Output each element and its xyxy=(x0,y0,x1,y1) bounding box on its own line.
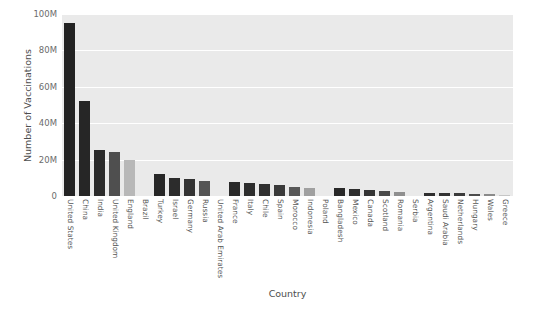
y-tick-label: 80M xyxy=(39,45,57,55)
bar xyxy=(499,195,510,196)
bar-slot xyxy=(422,14,437,196)
x-tick-label: Turkey xyxy=(155,199,164,223)
bar xyxy=(154,174,165,196)
x-tick-label: Poland xyxy=(320,199,329,224)
bar-slot xyxy=(167,14,182,196)
bar-slot xyxy=(407,14,422,196)
x-tick-slot: Brazil xyxy=(137,199,152,284)
x-tick-label: Hungary xyxy=(470,199,479,231)
x-tick-label: Russia xyxy=(200,199,209,223)
bar-chart-figure: Number of Vaccinations 020M40M60M80M100M… xyxy=(0,0,546,317)
x-tick-slot: Turkey xyxy=(152,199,167,284)
bar-slot xyxy=(137,14,152,196)
x-tick-label: Germany xyxy=(185,199,194,233)
x-tick-slot: England xyxy=(122,199,137,284)
bar xyxy=(424,193,435,196)
x-tick-slot: Indonesia xyxy=(302,199,317,284)
x-tick-slot: Scotland xyxy=(377,199,392,284)
bar xyxy=(124,160,135,196)
x-tick-label: France xyxy=(230,199,239,224)
x-tick-slot: Argentina xyxy=(422,199,437,284)
bar-slot xyxy=(122,14,137,196)
x-tick-slot: India xyxy=(92,199,107,284)
bar-slot xyxy=(257,14,272,196)
x-tick-slot: United Kingdom xyxy=(107,199,122,284)
x-tick-label: Israel xyxy=(170,199,179,219)
x-tick-label: Romania xyxy=(395,199,404,231)
bar xyxy=(79,101,90,196)
bar xyxy=(469,194,480,196)
bar xyxy=(64,23,75,196)
bar-slot xyxy=(242,14,257,196)
x-tick-slot: Greece xyxy=(497,199,512,284)
x-tick-label: Canada xyxy=(365,199,374,227)
bar xyxy=(379,191,390,196)
x-tick-label: Chile xyxy=(260,199,269,218)
x-tick-label: China xyxy=(80,199,89,220)
x-tick-label: England xyxy=(125,199,134,229)
x-tick-label: United Arab Emirates xyxy=(215,199,224,278)
x-axis-tick-labels: United StatesChinaIndiaUnited KingdomEng… xyxy=(62,199,513,284)
x-tick-label: Wales xyxy=(485,199,494,221)
bar-slot xyxy=(152,14,167,196)
x-tick-label: Scotland xyxy=(380,199,389,231)
y-tick-label: 20M xyxy=(39,155,57,165)
x-tick-slot: Italy xyxy=(242,199,257,284)
bar xyxy=(304,188,315,196)
x-tick-slot: Wales xyxy=(482,199,497,284)
x-tick-label: Argentina xyxy=(425,199,434,235)
bar-slot xyxy=(317,14,332,196)
bar-slot xyxy=(92,14,107,196)
x-tick-slot: United Arab Emirates xyxy=(212,199,227,284)
bar-slot xyxy=(482,14,497,196)
bar xyxy=(334,188,345,196)
bar-slot xyxy=(467,14,482,196)
x-tick-slot: Canada xyxy=(362,199,377,284)
x-tick-slot: Saudi Arabia xyxy=(437,199,452,284)
bar-slot xyxy=(62,14,77,196)
bar-slot xyxy=(287,14,302,196)
bar-slot xyxy=(332,14,347,196)
x-tick-slot: Morocco xyxy=(287,199,302,284)
x-tick-slot: Spain xyxy=(272,199,287,284)
bar-slot xyxy=(437,14,452,196)
bar xyxy=(439,193,450,196)
bar-slot xyxy=(452,14,467,196)
x-tick-label: Morocco xyxy=(290,199,299,230)
bar-slot xyxy=(77,14,92,196)
x-tick-label: Italy xyxy=(245,199,254,215)
x-tick-slot: France xyxy=(227,199,242,284)
x-tick-label: Mexico xyxy=(350,199,359,225)
bar xyxy=(229,182,240,196)
y-tick-label: 40M xyxy=(39,118,57,128)
bar xyxy=(184,179,195,196)
bar xyxy=(199,181,210,196)
x-tick-label: Serbia xyxy=(410,199,419,223)
x-tick-slot: Mexico xyxy=(347,199,362,284)
x-tick-slot: United States xyxy=(62,199,77,284)
x-tick-label: Netherlands xyxy=(455,199,464,244)
x-tick-label: Saudi Arabia xyxy=(440,199,449,246)
y-tick-label: 0 xyxy=(52,191,57,201)
bar xyxy=(94,150,105,196)
bar xyxy=(169,178,180,196)
x-tick-label: United Kingdom xyxy=(110,199,119,258)
x-tick-slot: Hungary xyxy=(467,199,482,284)
bar-slot xyxy=(302,14,317,196)
bar xyxy=(454,193,465,196)
x-tick-label: India xyxy=(95,199,104,217)
bar xyxy=(259,184,270,196)
bar-series xyxy=(62,14,513,196)
bar xyxy=(394,192,405,196)
plot-area xyxy=(62,14,513,196)
bar-slot xyxy=(197,14,212,196)
bar-slot xyxy=(497,14,512,196)
bar-slot xyxy=(377,14,392,196)
x-tick-slot: Russia xyxy=(197,199,212,284)
bar-slot xyxy=(392,14,407,196)
bar-slot xyxy=(227,14,242,196)
x-tick-label: Bangladesh xyxy=(335,199,344,242)
y-tick-label: 100M xyxy=(33,9,57,19)
x-tick-label: Spain xyxy=(275,199,284,220)
bar-slot xyxy=(347,14,362,196)
